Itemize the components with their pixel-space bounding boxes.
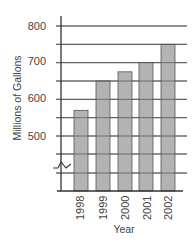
bar-1998 [74,110,88,191]
x-tick-1999: 1999 [97,196,109,220]
x-tick-labels: 1998 1999 2000 2001 2002 [74,196,174,220]
bar-chart: 800 700 600 500 1998 1999 2000 2001 2002… [0,0,194,244]
axis-break-icon [53,162,71,168]
x-tick-2002: 2002 [162,196,174,220]
y-tick-500: 500 [28,130,46,142]
x-axis-title: Year [113,223,135,235]
bar-2001 [139,63,153,191]
y-tick-labels: 800 700 600 500 [28,20,46,142]
y-axis-title: Millions of Gallons [11,55,23,140]
x-tick-2001: 2001 [141,196,153,220]
x-tick-2000: 2000 [119,196,131,220]
x-tick-1998: 1998 [74,196,86,220]
y-tick-600: 600 [28,92,46,104]
y-tick-800: 800 [28,20,46,32]
y-tick-700: 700 [28,55,46,67]
